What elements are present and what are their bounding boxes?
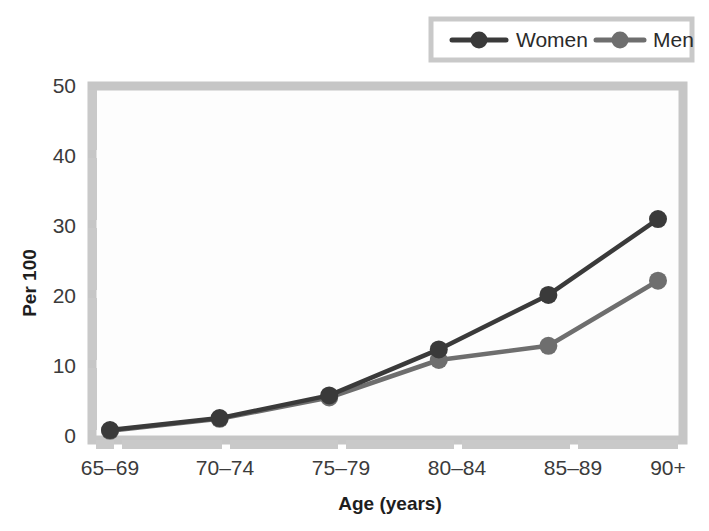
y-tick-label: 40 bbox=[53, 144, 76, 167]
legend-marker-swatch bbox=[612, 32, 629, 49]
data-point bbox=[649, 210, 667, 228]
x-axis-tick-labels: 65–69 70–74 75–79 80–84 85–89 90+ bbox=[81, 456, 686, 479]
y-tick-label: 10 bbox=[53, 354, 76, 377]
y-tick-label: 30 bbox=[53, 214, 76, 237]
data-point bbox=[649, 272, 667, 290]
data-point bbox=[101, 421, 119, 439]
x-tick-label: 70–74 bbox=[196, 456, 255, 479]
y-axis-title: Per 100 bbox=[19, 249, 40, 317]
legend-label: Women bbox=[516, 28, 588, 51]
legend-label: Men bbox=[653, 28, 694, 51]
y-tick-label: 50 bbox=[53, 74, 76, 97]
x-tick-label: 90+ bbox=[650, 456, 686, 479]
x-axis-band bbox=[96, 440, 678, 449]
y-axis-tick-labels: 50 40 30 20 10 0 bbox=[53, 74, 76, 447]
chart-figure: 50 40 30 20 10 0 Per 100 65–69 70–74 75–… bbox=[0, 0, 709, 531]
data-point bbox=[211, 409, 229, 427]
y-tick-label: 20 bbox=[53, 284, 76, 307]
x-axis-title: Age (years) bbox=[338, 493, 442, 514]
x-tick-label: 65–69 bbox=[81, 456, 139, 479]
y-tick-label: 0 bbox=[64, 424, 76, 447]
chart-legend: Women Men bbox=[431, 19, 694, 60]
data-point bbox=[539, 286, 557, 304]
data-point bbox=[539, 337, 557, 355]
x-tick-label: 75–79 bbox=[312, 456, 370, 479]
legend-marker-swatch bbox=[471, 32, 488, 49]
line-chart: 50 40 30 20 10 0 Per 100 65–69 70–74 75–… bbox=[0, 0, 709, 531]
x-tick-label: 85–89 bbox=[544, 456, 602, 479]
y-axis-band bbox=[88, 90, 97, 430]
x-tick-label: 80–84 bbox=[428, 456, 487, 479]
data-point bbox=[320, 386, 338, 404]
data-point bbox=[430, 340, 448, 358]
